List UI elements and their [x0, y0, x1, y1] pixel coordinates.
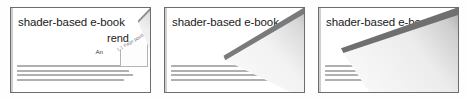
page-flip-frame-3: shader-based e-book rend An 1.1 Page pos… [318, 7, 459, 93]
body-text-line [17, 79, 124, 81]
page-flip-frame-2: shader-based e-book rend An 1.1 Page pos… [164, 7, 305, 93]
body-text-line [171, 79, 278, 81]
body-text-line [17, 65, 135, 67]
body-text-line [17, 70, 129, 72]
page-subtitle: rend [11, 32, 129, 44]
page-author: An [11, 48, 103, 55]
page-title: shader-based e-book [18, 16, 150, 28]
page-flip-sequence-figure: shader-based e-book rend An 1.1 Page pos… [0, 0, 467, 99]
body-text-line [17, 74, 133, 76]
page-flip-frame-1: shader-based e-book rend An 1.1 Page pos… [10, 7, 151, 93]
page-body-text [17, 65, 139, 83]
